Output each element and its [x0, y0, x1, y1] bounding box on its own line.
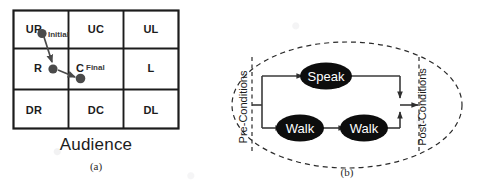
walk-node-1[interactable]: Walk — [276, 115, 324, 142]
walk-node-2[interactable]: Walk — [340, 115, 388, 142]
post-conditions-label: Post-Conditions — [416, 68, 428, 146]
speak-node[interactable]: Speak — [300, 63, 352, 90]
figure-container: UR UC UL R C L DR DC DL Initial Final Au… — [0, 0, 477, 185]
walk-node-1-label: Walk — [286, 121, 315, 136]
walk-node-2-label: Walk — [350, 121, 379, 136]
panel-b-plan-diagram: Pre-Conditions Post-Conditions Speak Wal… — [0, 0, 477, 185]
speak-node-label: Speak — [308, 69, 345, 84]
panel-b-caption: (b) — [341, 166, 354, 179]
pre-conditions-label: Pre-Conditions — [237, 70, 249, 143]
